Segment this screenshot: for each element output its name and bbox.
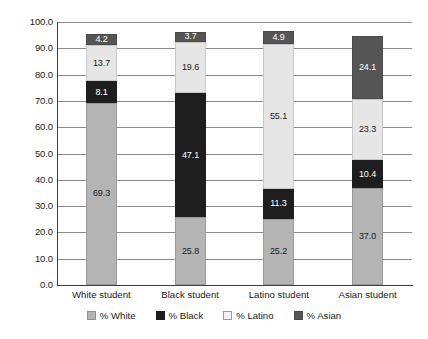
segment-value-label: 19.6 [182, 63, 199, 72]
legend-label: % Asian [307, 310, 342, 321]
segment-value-label: 3.7 [184, 32, 196, 41]
segment-value-label: 8.1 [95, 88, 107, 97]
y-tick-label: 10.0 [7, 254, 53, 264]
segment-value-label: 25.2 [270, 247, 287, 256]
y-axis-line [57, 22, 58, 286]
stacked-bar-chart: 100.090.080.070.060.050.040.030.020.010.… [0, 0, 428, 339]
y-tick-label: 30.0 [7, 201, 53, 211]
segment-value-label: 24.1 [359, 63, 376, 72]
legend-swatch-white-icon [87, 311, 96, 320]
plot-area: 4.213.78.169.33.719.647.125.84.955.111.3… [57, 22, 412, 285]
y-tick-label: 70.0 [7, 96, 53, 106]
category-label-white-student: White student [57, 288, 146, 301]
legend-swatch-latino-icon [223, 311, 232, 320]
y-tick-label: 20.0 [7, 227, 53, 237]
y-tick-label: 80.0 [7, 70, 53, 80]
bar-latino-student[interactable]: 4.955.111.325.2 [263, 31, 294, 285]
bar-asian-student[interactable]: 24.123.310.437.0 [352, 36, 383, 285]
category-label-black-student: Black student [146, 288, 235, 301]
segment-value-label: 37.0 [359, 232, 376, 241]
category-label-latino-student: Latino student [235, 288, 324, 301]
legend-item-latino[interactable]: % Latino [223, 310, 273, 321]
segment-latino[interactable]: 23.3 [352, 99, 383, 160]
segment-value-label: 47.1 [182, 151, 199, 160]
segment-black[interactable]: 10.4 [352, 160, 383, 187]
segment-black[interactable]: 8.1 [86, 81, 117, 102]
legend-swatch-asian-icon [294, 311, 303, 320]
segment-latino[interactable]: 55.1 [263, 44, 294, 189]
segment-value-label: 11.3 [270, 199, 286, 208]
segment-value-label: 4.9 [272, 33, 284, 42]
segment-white[interactable]: 25.2 [263, 219, 294, 285]
segment-value-label: 4.2 [95, 35, 107, 44]
chart-legend: % White% Black% Latino% Asian [0, 310, 428, 321]
segment-value-label: 25.8 [182, 247, 199, 256]
y-tick-label: 40.0 [7, 175, 53, 185]
x-axis-category-labels: White studentBlack studentLatino student… [57, 288, 413, 304]
category-label-asian-student: Asian student [323, 288, 412, 301]
x-axis-line [57, 285, 413, 286]
y-tick-label: 50.0 [7, 149, 53, 159]
legend-item-white[interactable]: % White [87, 310, 136, 321]
segment-value-label: 13.7 [93, 59, 110, 68]
segment-asian[interactable]: 3.7 [175, 32, 206, 42]
segment-latino[interactable]: 19.6 [175, 42, 206, 94]
segment-value-label: 55.1 [270, 112, 287, 121]
bar-black-student[interactable]: 3.719.647.125.8 [175, 32, 206, 285]
y-tick-label: 0.0 [7, 280, 53, 290]
bar-white-student[interactable]: 4.213.78.169.3 [86, 34, 117, 285]
y-tick-label: 60.0 [7, 122, 53, 132]
legend-label: % Latino [236, 310, 273, 321]
legend-label: % Black [169, 310, 204, 321]
segment-white[interactable]: 37.0 [352, 188, 383, 285]
y-tick-label: 90.0 [7, 43, 53, 53]
segment-value-label: 23.3 [359, 125, 376, 134]
segment-asian[interactable]: 24.1 [352, 36, 383, 99]
y-axis-labels: 100.090.080.070.060.050.040.030.020.010.… [0, 0, 53, 339]
segment-asian[interactable]: 4.9 [263, 31, 294, 44]
segment-white[interactable]: 69.3 [86, 103, 117, 285]
segment-black[interactable]: 47.1 [175, 93, 206, 217]
legend-label: % White [100, 310, 136, 321]
segment-value-label: 69.3 [93, 189, 110, 198]
segment-asian[interactable]: 4.2 [86, 34, 117, 45]
gridline-100-0 [57, 22, 412, 23]
segment-white[interactable]: 25.8 [175, 217, 206, 285]
legend-item-asian[interactable]: % Asian [294, 310, 342, 321]
segment-black[interactable]: 11.3 [263, 189, 294, 219]
legend-item-black[interactable]: % Black [156, 310, 204, 321]
y-tick-label: 100.0 [7, 17, 53, 27]
segment-value-label: 10.4 [359, 170, 376, 179]
legend-swatch-black-icon [156, 311, 165, 320]
segment-latino[interactable]: 13.7 [86, 45, 117, 81]
